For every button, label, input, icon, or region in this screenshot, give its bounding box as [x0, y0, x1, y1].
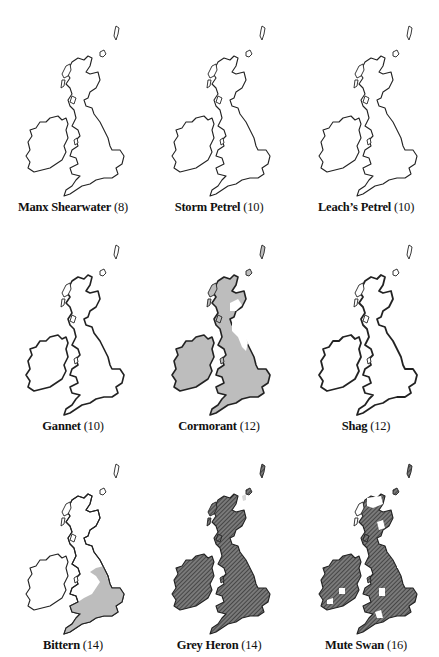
map-panel-bittern: Bittern (14) [0, 438, 146, 657]
species-name: Bittern [43, 638, 80, 652]
britain-ireland-hatched-distribution-map [293, 438, 439, 638]
species-name: Shag [342, 419, 368, 433]
species-count: (12) [240, 419, 260, 433]
map-panel-gannet: Gannet (10) [0, 219, 146, 438]
map-caption: Grey Heron (14) [146, 638, 292, 653]
species-count: (10) [84, 419, 104, 433]
species-name: Mute Swan [325, 638, 384, 652]
species-count: (10) [394, 200, 414, 214]
britain-ireland-hatched-distribution-map [146, 438, 292, 638]
map-caption: Storm Petrel (10) [146, 200, 292, 215]
britain-ireland-outline-map [0, 0, 146, 200]
species-name: Cormorant [178, 419, 237, 433]
britain-ireland-outline-map [146, 0, 292, 200]
britain-ireland-outline-map [293, 0, 439, 200]
species-name: Manx Shearwater [18, 200, 111, 214]
britain-ireland-grey-distribution-map [0, 438, 146, 638]
map-panel-shag: Shag (12) [293, 219, 439, 438]
map-panel-cormorant: Cormorant (12) [146, 219, 292, 438]
map-panel-grey-heron: Grey Heron (14) [146, 438, 292, 657]
map-caption: Manx Shearwater (8) [0, 200, 146, 215]
map-grid: Manx Shearwater (8) Storm Petrel (10) Le… [0, 0, 439, 657]
britain-ireland-outline-map [0, 219, 146, 419]
species-count: (12) [370, 419, 390, 433]
map-caption: Cormorant (12) [146, 419, 292, 434]
species-name: Storm Petrel [175, 200, 241, 214]
species-count: (16) [387, 638, 407, 652]
species-name: Grey Heron [177, 638, 239, 652]
britain-ireland-outline-map [293, 219, 439, 419]
map-panel-leachs-petrel: Leach’s Petrel (10) [293, 0, 439, 219]
species-name: Gannet [42, 419, 80, 433]
species-name: Leach’s Petrel [318, 200, 391, 214]
map-caption: Bittern (14) [0, 638, 146, 653]
map-panel-manx-shearwater: Manx Shearwater (8) [0, 0, 146, 219]
map-caption: Leach’s Petrel (10) [293, 200, 439, 215]
species-count: (10) [243, 200, 263, 214]
map-panel-mute-swan: Mute Swan (16) [293, 438, 439, 657]
species-count: (14) [241, 638, 261, 652]
map-caption: Gannet (10) [0, 419, 146, 434]
species-count: (8) [114, 200, 128, 214]
map-panel-storm-petrel: Storm Petrel (10) [146, 0, 292, 219]
britain-ireland-grey-distribution-map [146, 219, 292, 419]
species-count: (14) [83, 638, 103, 652]
map-caption: Mute Swan (16) [293, 638, 439, 653]
map-caption: Shag (12) [293, 419, 439, 434]
